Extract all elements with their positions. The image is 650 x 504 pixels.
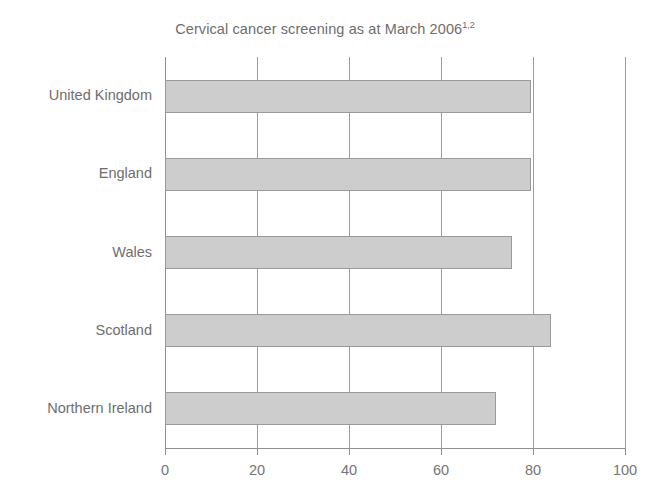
category-label: Wales bbox=[0, 244, 152, 260]
x-tick-mark-40 bbox=[349, 449, 350, 455]
category-label: Scotland bbox=[0, 322, 152, 338]
x-tick-label-80: 80 bbox=[503, 462, 563, 478]
bar bbox=[165, 314, 551, 347]
x-tick-label-20: 20 bbox=[227, 462, 287, 478]
bar bbox=[165, 236, 512, 269]
x-tick-mark-60 bbox=[441, 449, 442, 455]
category-axis-labels: United KingdomEnglandWalesScotlandNorthe… bbox=[0, 0, 152, 504]
x-tick-label-0: 0 bbox=[135, 462, 195, 478]
x-tick-mark-80 bbox=[533, 449, 534, 455]
chart-title-text: Cervical cancer screening as at March 20… bbox=[175, 21, 462, 37]
x-tick-label-60: 60 bbox=[411, 462, 471, 478]
bar bbox=[165, 158, 531, 191]
x-axis-line bbox=[165, 448, 626, 449]
x-tick-label-100: 100 bbox=[595, 462, 650, 478]
x-tick-mark-0 bbox=[165, 449, 166, 455]
chart-title-footnote-marker: 1,2 bbox=[462, 20, 475, 30]
x-tick-mark-20 bbox=[257, 449, 258, 455]
bar-chart-figure: Cervical cancer screening as at March 20… bbox=[0, 0, 650, 504]
gridline-x-80 bbox=[533, 57, 534, 448]
x-tick-mark-100 bbox=[625, 449, 626, 455]
category-label: Northern Ireland bbox=[0, 400, 152, 416]
x-tick-label-40: 40 bbox=[319, 462, 379, 478]
bar bbox=[165, 80, 531, 113]
plot-area bbox=[165, 57, 625, 448]
category-label: United Kingdom bbox=[0, 87, 152, 103]
bar bbox=[165, 392, 496, 425]
category-label: England bbox=[0, 165, 152, 181]
gridline-x-100 bbox=[625, 57, 626, 448]
